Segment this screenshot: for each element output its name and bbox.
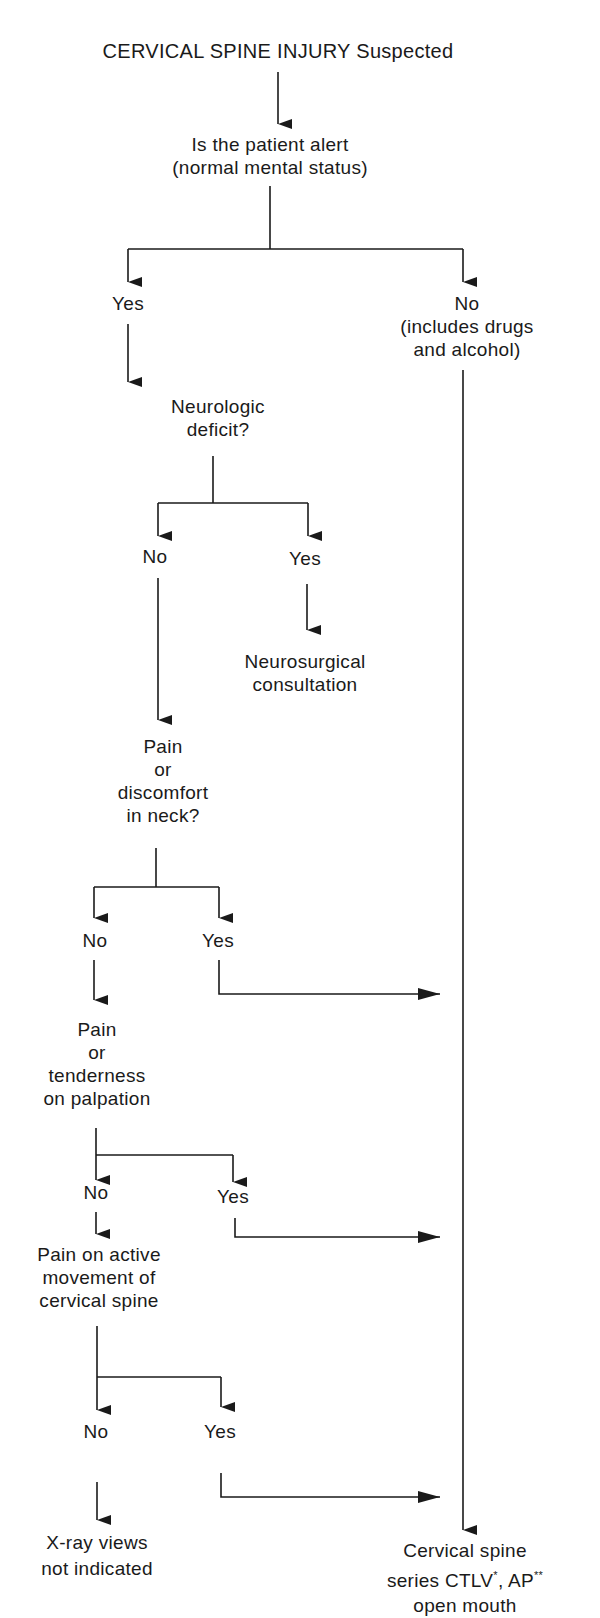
node-neuro-yes: Yes — [289, 547, 321, 570]
node-text: consultation — [244, 673, 365, 696]
node-alert-yes: Yes — [112, 292, 144, 315]
node-palpation-no: No — [84, 1181, 109, 1204]
node-alert-question: Is the patient alert (normal mental stat… — [172, 133, 368, 179]
node-text: cervical spine — [37, 1289, 161, 1312]
node-text: Pain on active — [37, 1243, 161, 1266]
node-text: Pain — [118, 735, 209, 758]
node-neurosurgical-consultation: Neurosurgical consultation — [244, 650, 365, 696]
node-text: on palpation — [43, 1087, 150, 1110]
node-text: or — [43, 1041, 150, 1064]
flowchart-title: CERVICAL SPINE INJURY Suspected — [103, 40, 454, 63]
arrow-pain-neck-yes-to-series — [219, 960, 440, 994]
node-text: in neck? — [118, 804, 209, 827]
node-text: deficit? — [171, 418, 265, 441]
node-movement-no: No — [84, 1420, 109, 1443]
node-text: Pain — [43, 1018, 150, 1041]
node-pain-neck-no: No — [83, 929, 108, 952]
node-text: and alcohol) — [400, 338, 533, 361]
node-text: Neurologic — [171, 395, 265, 418]
node-text: open mouth — [387, 1593, 543, 1618]
node-neuro-no: No — [143, 545, 168, 568]
node-text: or — [118, 758, 209, 781]
node-text: Is the patient alert — [172, 133, 368, 156]
arrow-movement-yes-to-series — [221, 1473, 440, 1497]
node-text: No — [400, 292, 533, 315]
node-text: tenderness — [43, 1064, 150, 1087]
node-neuro-question: Neurologic deficit? — [171, 395, 265, 441]
node-movement-question: Pain on active movement of cervical spin… — [37, 1243, 161, 1312]
node-text: X-ray views — [41, 1530, 153, 1556]
node-text: Cervical spine — [387, 1538, 543, 1563]
series-label: , AP — [498, 1570, 534, 1591]
footnote-marker: ** — [534, 1569, 543, 1581]
node-palpation-question: Pain or tenderness on palpation — [43, 1018, 150, 1110]
series-label: series CTLV — [387, 1570, 493, 1591]
node-text: series CTLV*, AP** — [387, 1563, 543, 1593]
node-movement-yes: Yes — [204, 1420, 236, 1443]
node-pain-neck-yes: Yes — [202, 929, 234, 952]
node-text: (normal mental status) — [172, 156, 368, 179]
node-alert-no: No (includes drugs and alcohol) — [400, 292, 533, 361]
node-cervical-spine-series: Cervical spine series CTLV*, AP** open m… — [387, 1538, 543, 1618]
node-palpation-yes: Yes — [217, 1185, 249, 1208]
node-pain-neck-question: Pain or discomfort in neck? — [118, 735, 209, 827]
node-text: (includes drugs — [400, 315, 533, 338]
node-text: movement of — [37, 1266, 161, 1289]
node-text: not indicated — [41, 1556, 153, 1582]
node-xray-not-indicated: X-ray views not indicated — [41, 1530, 153, 1582]
node-text: Neurosurgical — [244, 650, 365, 673]
node-text: discomfort — [118, 781, 209, 804]
arrow-palpation-yes-to-series — [235, 1218, 440, 1237]
